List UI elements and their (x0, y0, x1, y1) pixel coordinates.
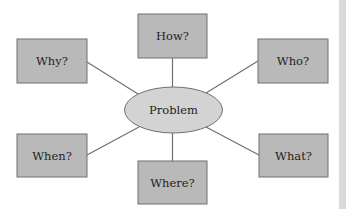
connector-why (87, 62, 138, 94)
question-mind-map: Problem How?Why?Who?When?What?Where? (0, 0, 346, 209)
center-node-problem: Problem (125, 87, 223, 133)
connector-who (206, 61, 258, 93)
node-label-why: Why? (36, 54, 68, 68)
node-label-what: What? (275, 149, 312, 163)
center-label: Problem (149, 103, 198, 117)
connector-when (87, 127, 139, 155)
node-label-how: How? (156, 29, 189, 43)
node-what: What? (259, 134, 328, 177)
node-where: Where? (138, 161, 207, 204)
connector-what (206, 127, 259, 155)
node-why: Why? (17, 39, 87, 83)
node-when: When? (17, 134, 87, 177)
node-who: Who? (258, 39, 328, 83)
node-label-when: When? (32, 149, 72, 163)
node-label-who: Who? (277, 54, 309, 68)
node-label-where: Where? (150, 176, 195, 190)
page-edge-strip (339, 0, 346, 209)
node-how: How? (138, 14, 207, 58)
